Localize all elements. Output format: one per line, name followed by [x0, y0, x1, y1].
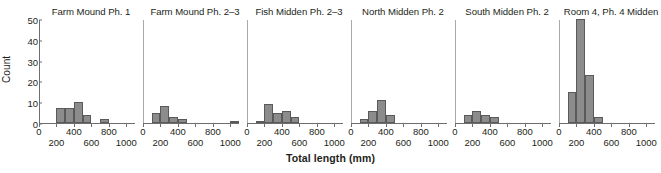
histogram-bar: [178, 119, 187, 123]
x-axis-tick-label: 200: [257, 137, 273, 148]
x-axis-tick-label: 1000: [532, 137, 553, 148]
histogram-bar: [100, 119, 109, 123]
histogram-panel: South Midden Ph. 204008002006001000: [455, 0, 559, 173]
x-axis-tick-label: 600: [499, 137, 515, 148]
histogram-bar: [585, 75, 594, 123]
histogram-bar: [472, 111, 481, 123]
x-axis-tick-label: 0: [36, 126, 41, 137]
x-axis-tick-label: 800: [309, 126, 325, 137]
x-axis-tick-label: 400: [586, 126, 602, 137]
histogram-bar: [576, 19, 585, 123]
x-axis-title: Total length (mm): [0, 152, 661, 164]
x-axis-tick-label: 200: [361, 137, 377, 148]
histogram-panel: Fish Midden Ph. 2–304008002006001000: [247, 0, 351, 173]
x-axis-tick-label: 400: [66, 126, 82, 137]
panel-title: Farm Mound Ph. 2–3: [143, 6, 247, 17]
plot-area: [39, 20, 135, 124]
plot-area: [559, 20, 655, 124]
x-axis-tick-label: 400: [378, 126, 394, 137]
x-axis-tick-label: 1000: [116, 137, 137, 148]
y-axis-tick-label: 10: [16, 98, 38, 109]
histogram-bar: [169, 117, 178, 123]
histogram-bar: [264, 104, 273, 123]
panel-divider-line: [351, 20, 352, 124]
x-axis-tick-label: 0: [556, 126, 561, 137]
histogram-panel: Farm Mound Ph. 104008002006001000: [39, 0, 143, 173]
x-axis-line: [455, 123, 551, 124]
histogram-bar: [360, 119, 369, 123]
panel-title: Fish Midden Ph. 2–3: [247, 6, 351, 17]
y-axis-tick-label: 0: [16, 119, 38, 130]
x-axis-line: [559, 123, 655, 124]
y-axis-tick-label: 40: [16, 35, 38, 46]
x-axis-tick-label: 600: [603, 137, 619, 148]
x-axis-tick-label-row: 2006001000: [351, 137, 447, 149]
y-axis-tick-label: 30: [16, 56, 38, 67]
x-axis-tick-label: 600: [291, 137, 307, 148]
histogram-bar: [594, 117, 603, 123]
histogram-bar: [282, 111, 291, 123]
x-axis-tick-label-row: 2006001000: [455, 137, 551, 149]
x-axis-tick-label: 400: [482, 126, 498, 137]
histogram-bar: [386, 115, 395, 123]
x-axis-tick-label: 1000: [220, 137, 241, 148]
x-axis-tick-label: 200: [465, 137, 481, 148]
x-axis-tick-label: 600: [187, 137, 203, 148]
histogram-panel: Farm Mound Ph. 2–304008002006001000: [143, 0, 247, 173]
histogram-bar: [256, 121, 265, 123]
x-axis-tick-label: 1000: [428, 137, 449, 148]
x-axis-tick-label: 200: [153, 137, 169, 148]
plot-area: [143, 20, 239, 124]
panel-title: Room 4, Ph. 4 Midden: [559, 6, 661, 17]
histogram-bar: [160, 106, 169, 123]
histogram-bar: [273, 113, 282, 123]
x-axis-tick-label: 200: [49, 137, 65, 148]
plot-area: [351, 20, 447, 124]
x-axis-tick-label: 600: [83, 137, 99, 148]
histogram-bar: [291, 117, 300, 123]
histogram-bar: [83, 115, 92, 123]
x-axis-tick-label: 0: [452, 126, 457, 137]
x-axis-tick-label: 400: [170, 126, 186, 137]
x-axis-tick-label-row: 2006001000: [143, 137, 239, 149]
x-axis-tick-label: 800: [621, 126, 637, 137]
x-axis-tick-label: 800: [413, 126, 429, 137]
histogram-bar: [56, 108, 65, 123]
y-axis-tick-label: 50: [16, 15, 38, 26]
y-axis-tick-mark: [39, 40, 42, 41]
plot-area: [455, 20, 551, 124]
y-axis-tick-mark: [39, 103, 42, 104]
y-axis-tick-labels: 01020304050: [16, 20, 38, 124]
y-axis-tick-mark: [39, 124, 42, 125]
histogram-bar: [65, 108, 74, 123]
panel-divider-line: [247, 20, 248, 124]
histogram-bar: [74, 102, 83, 123]
histogram-bar: [377, 100, 386, 123]
x-axis-tick-label: 800: [101, 126, 117, 137]
x-axis-tick-label-row: 2006001000: [39, 137, 135, 149]
y-axis-tick-mark: [39, 20, 42, 21]
x-axis-line: [351, 123, 447, 124]
panel-title: North Midden Ph. 2: [351, 6, 455, 17]
histogram-panel: North Midden Ph. 204008002006001000: [351, 0, 455, 173]
x-axis-tick-label-row: 2006001000: [247, 137, 343, 149]
x-axis-tick-label: 600: [395, 137, 411, 148]
histogram-figure: Count 01020304050 Farm Mound Ph. 1040080…: [0, 0, 661, 173]
panel-divider-line: [455, 20, 456, 124]
panel-title: South Midden Ph. 2: [455, 6, 559, 17]
histogram-bar: [481, 115, 490, 123]
x-axis-tick-label: 800: [517, 126, 533, 137]
x-axis-tick-label: 1000: [324, 137, 345, 148]
histogram-bar: [568, 92, 577, 123]
histogram-bar: [152, 113, 161, 123]
x-axis-tick-label: 1000: [636, 137, 657, 148]
y-axis-tick-mark: [39, 82, 42, 83]
x-axis-tick-label: 0: [140, 126, 145, 137]
x-axis-tick-label: 0: [348, 126, 353, 137]
histogram-bar: [490, 117, 499, 123]
panel-title: Farm Mound Ph. 1: [39, 6, 143, 17]
x-axis-tick-label: 800: [205, 126, 221, 137]
histogram-panel: Room 4, Ph. 4 Midden04008002006001000: [559, 0, 661, 173]
y-axis-title: Count: [1, 42, 17, 96]
plot-area: [247, 20, 343, 124]
